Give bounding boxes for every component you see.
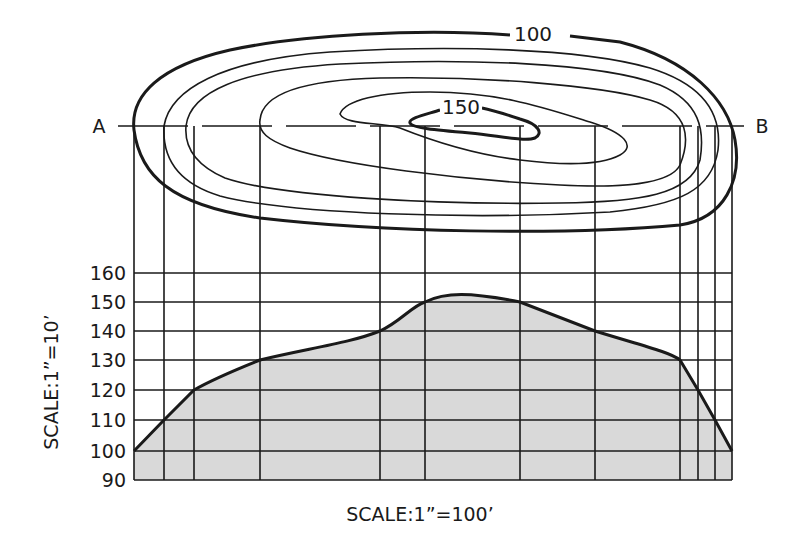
y-tick: 100 xyxy=(90,440,126,462)
horizontal-scale-label: SCALE:1”=100’ xyxy=(346,503,493,525)
y-tick: 140 xyxy=(90,320,126,342)
section-end-label: B xyxy=(755,115,768,137)
y-tick: 130 xyxy=(90,349,126,371)
y-tick: 150 xyxy=(90,291,126,313)
y-axis-labels: 160 150 140 130 120 110 100 90 xyxy=(90,262,126,491)
vertical-scale-label: SCALE:1”=10’ xyxy=(40,314,62,449)
section-start-label: A xyxy=(93,115,106,137)
contour-label-150: 150 xyxy=(442,95,480,119)
y-tick: 120 xyxy=(90,379,126,401)
y-tick: 160 xyxy=(90,262,126,284)
y-tick: 110 xyxy=(90,409,126,431)
contour-map xyxy=(134,32,737,231)
profile-diagram: 100 150 A B 160 150 140 130 xyxy=(0,0,804,550)
y-tick: 90 xyxy=(102,469,126,491)
contour-label-100: 100 xyxy=(514,22,552,46)
contour-110 xyxy=(164,49,719,216)
profile-area xyxy=(134,295,732,481)
contour-140 xyxy=(340,92,627,164)
